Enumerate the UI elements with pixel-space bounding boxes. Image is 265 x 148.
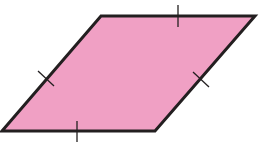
rhombus-figure: Rhombus with four congruent sides: [0, 0, 265, 148]
rhombus-diagram: [0, 0, 265, 148]
